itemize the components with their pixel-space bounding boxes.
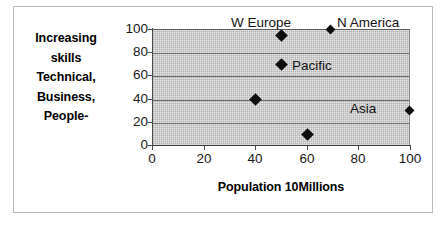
y-tick-label-0: 0: [114, 138, 148, 152]
x-tick-label-20: 20: [184, 152, 224, 166]
plot-area: [152, 29, 410, 145]
data-label-pacific: Pacific: [292, 59, 332, 73]
gridline-60: [152, 76, 409, 77]
y-tick-label-80: 80: [114, 45, 148, 59]
x-tick-mark-60: [307, 146, 308, 150]
y-axis-annotation-line-5: People-: [18, 107, 114, 127]
y-tick-label-60: 60: [114, 68, 148, 82]
x-tick-label-100: 100: [390, 152, 430, 166]
x-axis-line: [151, 145, 411, 146]
y-tick-mark-60: [148, 75, 152, 76]
x-tick-mark-80: [358, 146, 359, 150]
y-tick-mark-20: [148, 122, 152, 123]
x-axis-title: Population 10Millions: [152, 180, 410, 194]
x-tick-mark-0: [152, 146, 153, 150]
y-tick-mark-40: [148, 99, 152, 100]
x-tick-mark-20: [204, 146, 205, 150]
y-axis-annotation-line-3: Technical,: [18, 68, 114, 88]
x-tick-label-40: 40: [235, 152, 275, 166]
y-axis-annotation-line-1: Increasing: [18, 29, 114, 49]
y-tick-label-20: 20: [114, 115, 148, 129]
y-tick-label-100: 100: [114, 22, 148, 36]
y-tick-label-group: 100 80 60 40 20 0: [108, 0, 148, 232]
y-axis-annotation-block: Increasing skills Technical, Business, P…: [18, 29, 114, 127]
x-tick-mark-100: [410, 146, 411, 150]
y-tick-mark-80: [148, 52, 152, 53]
x-tick-mark-40: [255, 146, 256, 150]
data-label-n-america: N America: [337, 16, 399, 30]
y-axis-annotation-line-4: Business,: [18, 88, 114, 108]
gridline-20: [152, 123, 409, 124]
chart-figure: Increasing skills Technical, Business, P…: [0, 0, 447, 232]
y-axis-line: [152, 28, 153, 146]
data-label-asia: Asia: [350, 102, 376, 116]
x-tick-label-80: 80: [338, 152, 378, 166]
y-tick-label-40: 40: [114, 92, 148, 106]
gridline-80: [152, 53, 409, 54]
y-tick-mark-100: [148, 29, 152, 30]
x-tick-label-0: 0: [132, 152, 172, 166]
y-axis-annotation-line-2: skills: [18, 49, 114, 69]
x-tick-label-60: 60: [287, 152, 327, 166]
data-label-w-europe: W Europe: [231, 16, 291, 30]
